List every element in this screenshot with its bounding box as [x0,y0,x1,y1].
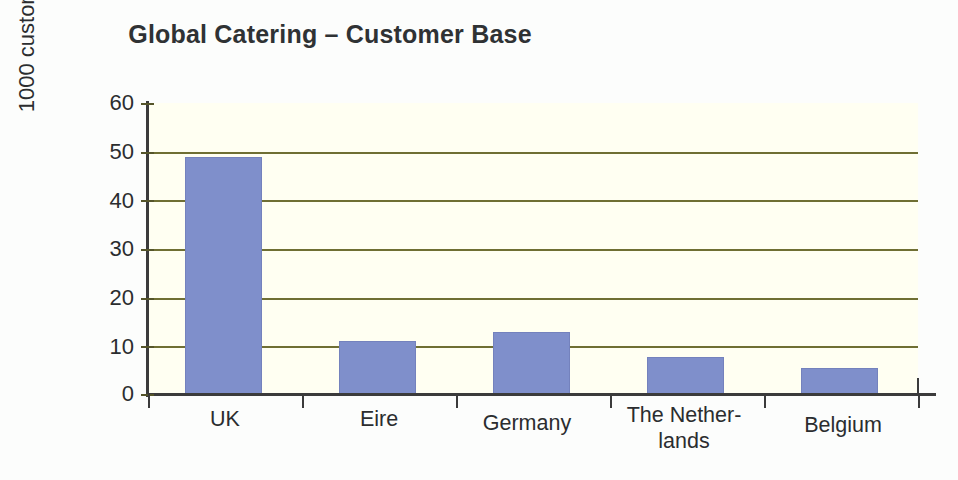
x-category-label-netherlands: The Nether- lands [604,402,764,454]
gridline-50 [148,152,918,154]
plot-area [148,103,918,395]
x-tick-mark-4 [764,394,766,408]
bar-belgium[interactable] [801,368,878,395]
y-tick-mark-60 [141,103,154,105]
y-tick-label-50: 50 [78,139,134,165]
x-category-label-belgium: Belgium [766,412,920,438]
gridline-30 [148,249,918,251]
y-tick-label-40: 40 [78,188,134,214]
x-category-label-eire-line1: Eire [302,406,456,432]
y-tick-mark-10 [141,346,154,348]
x-category-label-uk-line1: UK [148,406,302,432]
x-axis-line [146,393,936,396]
bar-eire[interactable] [339,341,416,395]
y-tick-mark-50 [141,152,154,154]
y-tick-label-20: 20 [78,285,134,311]
x-category-label-eire: Eire [302,406,456,432]
y-tick-label-10: 10 [78,334,134,360]
y-tick-label-60: 60 [78,90,134,116]
y-tick-mark-40 [141,200,154,202]
x-axis-end-tick [917,378,919,395]
chart-page: Global Catering – Customer Base 1000 cus… [0,0,958,480]
x-category-label-belgium-line1: Belgium [766,412,920,438]
x-category-label-germany-line1: Germany [450,410,604,436]
y-tick-label-0: 0 [78,381,134,407]
y-tick-label-30: 30 [78,236,134,262]
x-category-label-netherlands-line2: lands [604,428,764,454]
x-tick-mark-2 [456,394,458,408]
page-title: Global Catering – Customer Base [0,20,660,49]
bar-germany[interactable] [493,332,570,395]
y-axis-title: 1000 customers [14,0,58,164]
x-category-label-netherlands-line1: The Nether- [604,402,764,428]
x-tick-mark-5 [918,394,920,408]
y-tick-mark-30 [141,249,154,251]
bar-uk[interactable] [185,157,262,395]
y-tick-mark-20 [141,298,154,300]
gridline-20 [148,298,918,300]
x-category-label-germany: Germany [450,410,604,436]
x-category-label-uk: UK [148,406,302,432]
gridline-40 [148,200,918,202]
bar-netherlands[interactable] [647,357,724,395]
